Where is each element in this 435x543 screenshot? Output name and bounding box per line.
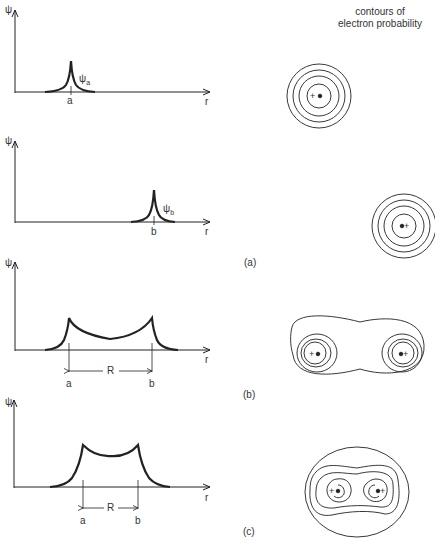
x-axis-label: r [205, 493, 208, 503]
y-axis-label: ψ [5, 397, 12, 407]
separation-label-R: R [107, 366, 114, 376]
marker-a: a [67, 96, 73, 106]
x-axis-label: r [205, 97, 208, 107]
graph-bonding-close [14, 400, 210, 509]
separation-label-R: R [107, 503, 114, 513]
x-axis-label: r [205, 355, 208, 365]
contours-title-line1: contours of [325, 6, 435, 18]
marker-a: a [80, 516, 86, 526]
y-axis-label: ψ [5, 136, 12, 146]
graph-bonding-separated [15, 262, 210, 372]
contours-molecule-separated [291, 316, 424, 374]
panel-label-a: (a) [244, 258, 256, 268]
contours-title-line2: electron probability [325, 18, 435, 30]
marker-b: b [151, 227, 157, 237]
curve-label-psi-b: ψb [163, 204, 174, 218]
nucleus-plus: + [329, 486, 334, 496]
psi-subscript: b [170, 209, 174, 216]
marker-b: b [149, 379, 155, 389]
curve-label-psi-a: ψa [79, 74, 90, 88]
graph-psi-a [15, 10, 210, 95]
marker-a: a [66, 379, 72, 389]
nucleus-plus: + [310, 91, 315, 101]
y-axis-label: ψ [5, 5, 12, 15]
nucleus-plus: + [403, 349, 408, 359]
graph-psi-b [15, 141, 210, 225]
y-axis-label: ψ [5, 258, 12, 268]
panel-label-c: (c) [243, 527, 255, 537]
contours-atom-a [287, 64, 351, 128]
nucleus-plus: + [309, 349, 314, 359]
marker-b: b [135, 516, 141, 526]
x-axis-label: r [205, 227, 208, 237]
psi-subscript: a [86, 79, 90, 86]
nucleus-plus: + [380, 486, 385, 496]
contours-molecule-close [305, 447, 409, 537]
contours-title: contours of electron probability [325, 6, 435, 30]
panel-label-b: (b) [243, 390, 255, 400]
nucleus-plus: + [404, 221, 409, 231]
orbital-diagram [0, 0, 435, 543]
